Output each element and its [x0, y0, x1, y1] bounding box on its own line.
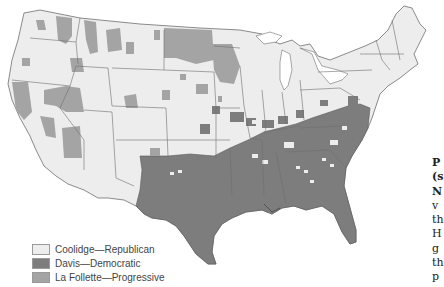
legend-item-democratic: Davis—Democratic — [32, 256, 165, 270]
caption-line: (s — [432, 170, 444, 184]
caption-line: th — [432, 256, 444, 270]
caption-line: H — [432, 227, 444, 241]
caption-line: P — [432, 156, 444, 170]
democratic-swatch — [32, 258, 50, 269]
legend-item-republican: Coolidge—Republican — [32, 242, 165, 256]
caption-line: g — [432, 242, 444, 256]
legend-item-progressive: La Follette—Progressive — [32, 270, 165, 284]
caption-line: N — [432, 185, 444, 199]
caption-text-cropped: P (s N v th H g th p — [432, 156, 444, 285]
legend-label: Davis—Democratic — [55, 258, 141, 269]
map-legend: Coolidge—Republican Davis—Democratic La … — [32, 242, 165, 284]
legend-label: Coolidge—Republican — [55, 244, 155, 255]
republican-swatch — [32, 244, 50, 255]
caption-line: p — [432, 270, 444, 284]
legend-label: La Follette—Progressive — [55, 272, 165, 283]
caption-line: v — [432, 199, 444, 213]
caption-line: th — [432, 213, 444, 227]
progressive-swatch — [32, 272, 50, 283]
